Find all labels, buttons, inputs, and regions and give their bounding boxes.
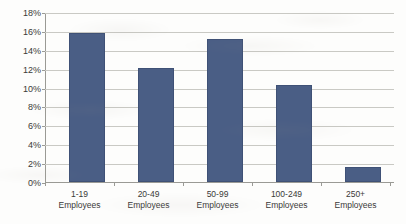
- x-axis-category-label-line2: Employees: [183, 200, 252, 211]
- bar-chart: 18% 16% 14% 12% 10% 8% 6% 4% 2% 0%: [0, 0, 406, 224]
- y-axis-tick-label: 10%: [3, 85, 41, 94]
- bar: [276, 85, 312, 182]
- x-axis-category-label-line1: 100-249: [252, 189, 321, 200]
- plot-area: [45, 13, 394, 182]
- y-axis-tick-label: 14%: [3, 47, 41, 56]
- x-axis-category-label: 250+ Employees: [321, 189, 390, 211]
- y-axis-tick-label: 6%: [3, 122, 41, 131]
- bar: [345, 167, 381, 182]
- y-axis: 18% 16% 14% 12% 10% 8% 6% 4% 2% 0%: [0, 13, 41, 183]
- x-axis-tick-mark: [114, 182, 115, 186]
- x-axis-category-label: 50-99 Employees: [183, 189, 252, 211]
- gridline: [45, 13, 394, 14]
- bar: [207, 39, 243, 182]
- bar: [138, 68, 174, 182]
- x-axis-tick-mark: [45, 182, 46, 186]
- y-axis-tick-label: 18%: [3, 9, 41, 18]
- x-axis-category-label-line2: Employees: [321, 200, 390, 211]
- y-axis-tick-label: 4%: [3, 141, 41, 150]
- x-axis-category-label: 1-19 Employees: [45, 189, 114, 211]
- x-axis-baseline: [45, 182, 394, 183]
- x-axis-tick-mark: [183, 182, 184, 186]
- y-axis-tick-label: 0%: [3, 179, 41, 188]
- y-axis-tick-label: 12%: [3, 66, 41, 75]
- x-axis-tick-mark: [390, 182, 391, 186]
- x-axis-category-label-line2: Employees: [114, 200, 183, 211]
- x-axis-category-label-line1: 50-99: [183, 189, 252, 200]
- y-axis-tick-label: 16%: [3, 28, 41, 37]
- x-axis-category-label-line1: 250+: [321, 189, 390, 200]
- x-axis-category-label-line2: Employees: [252, 200, 321, 211]
- x-axis-category-label: 20-49 Employees: [114, 189, 183, 211]
- bar: [69, 33, 105, 182]
- x-axis-category-label-line1: 20-49: [114, 189, 183, 200]
- y-axis-tick-label: 8%: [3, 103, 41, 112]
- x-axis-category-label-line1: 1-19: [45, 189, 114, 200]
- x-axis-tick-mark: [252, 182, 253, 186]
- x-axis-tick-mark: [321, 182, 322, 186]
- x-axis-category-label-line2: Employees: [45, 200, 114, 211]
- x-axis-category-label: 100-249 Employees: [252, 189, 321, 211]
- y-axis-tick-label: 2%: [3, 160, 41, 169]
